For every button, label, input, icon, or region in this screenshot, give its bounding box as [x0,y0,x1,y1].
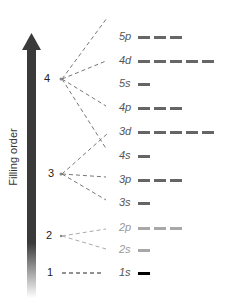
orbital-box [170,179,182,182]
level-3-connectors [62,134,107,200]
orbital-box [170,131,182,134]
orbital-label-4p: 4p [119,101,131,113]
orbital-box [154,179,166,182]
orbital-box [138,60,150,63]
orbital-box [138,202,150,205]
orbital-boxes-3d [138,131,214,134]
orbital-box [138,249,150,252]
orbital-box [154,131,166,134]
orbital-boxes-5s [138,83,150,86]
connector-nodes [60,78,63,238]
orbital-boxes-4s [138,155,150,158]
orbital-label-3d: 3d [119,125,131,137]
orbital-label-2p: 2p [119,221,131,233]
orbital-boxes-5p [138,36,182,39]
orbital-box [138,155,150,158]
orbital-boxes-1s [138,272,150,275]
orbital-label-4s: 4s [119,149,131,161]
orbital-box [154,36,166,39]
orbital-box [202,60,214,63]
orbital-box [170,107,182,110]
orbital-boxes-4d [138,60,214,63]
axis-label: Filling order [7,117,21,197]
level-4-label: 4 [44,72,50,84]
level-2-label: 2 [46,229,52,241]
orbital-boxes-3p [138,179,182,182]
level-2-connectors [62,229,106,249]
orbital-box [138,36,150,39]
orbital-boxes-2s [138,249,150,252]
orbital-box [154,60,166,63]
orbital-label-1s: 1s [119,266,131,278]
level-4-connectors [62,18,107,150]
orbital-box [138,83,150,86]
filling-order-diagram [0,0,225,303]
orbital-boxes-2p [138,227,182,230]
orbital-label-3p: 3p [119,173,131,185]
orbital-box [202,131,214,134]
orbital-box [154,107,166,110]
orbital-box [138,131,150,134]
orbital-box [138,107,150,110]
orbital-boxes-4p [138,107,182,110]
orbital-label-5p: 5p [119,30,131,42]
orbital-box [138,272,150,275]
level-3-label: 3 [48,167,54,179]
orbital-box [186,131,198,134]
orbital-label-4d: 4d [119,54,131,66]
orbital-label-2s: 2s [119,243,131,255]
level-1-label: 1 [47,266,53,278]
orbital-box [154,227,166,230]
orbital-box [138,227,150,230]
filling-order-arrow [22,33,41,298]
orbital-box [170,227,182,230]
orbital-label-5s: 5s [119,77,131,89]
orbital-box [170,60,182,63]
orbital-box [138,179,150,182]
orbital-box [186,60,198,63]
orbital-boxes-3s [138,202,150,205]
orbital-label-3s: 3s [119,196,131,208]
orbital-box [170,36,182,39]
